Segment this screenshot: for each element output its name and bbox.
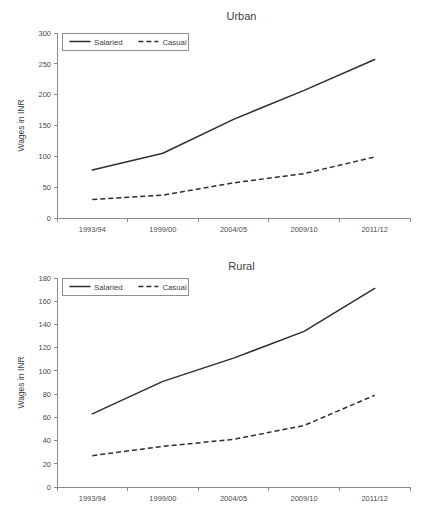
- y-tick-label: 20: [43, 460, 51, 469]
- x-tick-label: 1999/00: [149, 494, 176, 503]
- chart-page: Urban050100150200250300Wages in INR1993/…: [0, 0, 421, 518]
- x-tick-label: 2009/10: [291, 225, 318, 234]
- urban-figure: Urban050100150200250300Wages in INR1993/…: [0, 0, 421, 259]
- y-tick-label: 140: [38, 320, 51, 329]
- urban-chart-svg: Urban050100150200250300Wages in INR1993/…: [0, 0, 421, 259]
- y-axis-title: Wages in INR: [16, 356, 26, 408]
- x-tick-label: 1993/94: [79, 225, 106, 234]
- y-tick-label: 120: [38, 343, 51, 352]
- x-tick-label: 2011/12: [361, 225, 388, 234]
- y-tick-label: 60: [43, 413, 51, 422]
- legend-label-casual: Casual: [162, 38, 187, 47]
- x-tick-label: 1993/94: [79, 494, 106, 503]
- y-tick-label: 250: [38, 60, 51, 69]
- y-tick-label: 180: [38, 274, 51, 283]
- y-tick-label: 0: [47, 483, 51, 492]
- legend-label-salaried: Salaried: [94, 38, 123, 47]
- y-tick-label: 0: [47, 214, 51, 223]
- series-line-salaried: [92, 288, 374, 413]
- y-tick-label: 100: [38, 367, 51, 376]
- legend-label-salaried: Salaried: [94, 283, 123, 292]
- y-tick-label: 200: [38, 90, 51, 99]
- x-tick-label: 2009/10: [291, 494, 318, 503]
- series-line-casual: [92, 395, 374, 455]
- x-tick-label: 2011/12: [361, 494, 388, 503]
- legend-label-casual: Casual: [162, 283, 187, 292]
- y-tick-label: 100: [38, 152, 51, 161]
- chart-title: Rural: [228, 260, 254, 272]
- y-tick-label: 300: [38, 29, 51, 38]
- chart-title: Urban: [227, 10, 257, 22]
- y-tick-label: 50: [43, 183, 51, 192]
- y-tick-label: 160: [38, 297, 51, 306]
- x-tick-label: 2004/05: [220, 225, 247, 234]
- rural-figure: Rural020406080100120140160180Wages in IN…: [0, 259, 421, 518]
- y-tick-label: 40: [43, 436, 51, 445]
- rural-chart-svg: Rural020406080100120140160180Wages in IN…: [0, 259, 421, 518]
- y-tick-label: 80: [43, 390, 51, 399]
- y-axis-title: Wages in INR: [16, 99, 26, 151]
- x-tick-label: 2004/05: [220, 494, 247, 503]
- series-line-casual: [92, 157, 374, 200]
- x-tick-label: 1999/00: [149, 225, 176, 234]
- y-tick-label: 150: [38, 121, 51, 130]
- series-line-salaried: [92, 60, 374, 170]
